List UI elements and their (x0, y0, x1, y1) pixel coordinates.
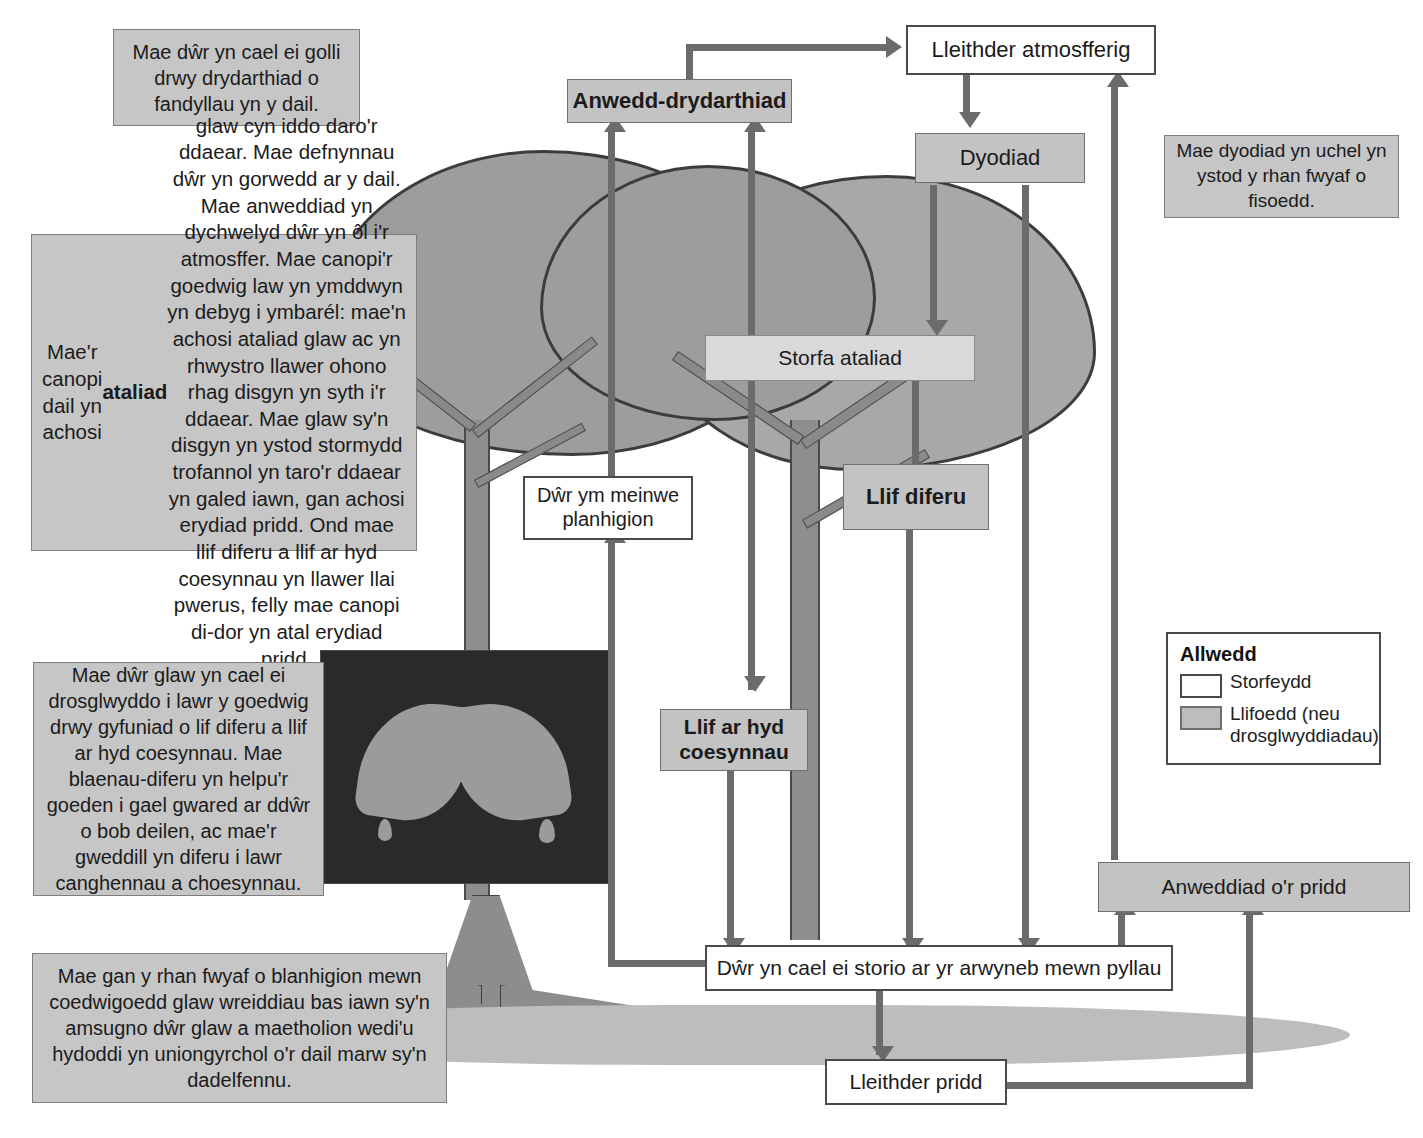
legend-label-stores: Storfeydd (1230, 671, 1311, 693)
photo-drop-right (539, 819, 555, 843)
note-transpiration: Mae dŵr yn cael ei golli drwy drydarthia… (113, 29, 360, 126)
arrowhead-to-atmospheric-moisture (886, 36, 902, 58)
connector-plant-tissue-to-evapotranspiration (608, 130, 615, 480)
arrowhead-interception-down (744, 676, 766, 692)
box-interception-store[interactable]: Storfa ataliad (705, 335, 975, 381)
connector-atmosphere-to-precipitation (963, 74, 970, 114)
box-stemflow[interactable]: Llif ar hyd coesynnau (660, 709, 808, 771)
legend-swatch-store (1180, 674, 1222, 698)
water-cycle-diagram: Anwedd-drydarthiad Lleithder atmosfferig… (0, 0, 1423, 1138)
note-canopy-interception: Mae'r canopi dail yn achosi ataliad glaw… (31, 234, 417, 551)
arrowhead-interception-store (926, 320, 948, 336)
box-evapotranspiration[interactable]: Anwedd-drydarthiad (567, 79, 792, 123)
photo-leaf-right (448, 694, 574, 828)
box-precipitation[interactable]: Dyodiad (915, 133, 1085, 183)
box-atmospheric-moisture[interactable]: Lleithder atmosfferig (906, 25, 1156, 75)
box-surface-water-store[interactable]: Dŵr yn cael ei storio ar yr arwyneb mewn… (705, 945, 1173, 991)
legend-label-flows: Llifoedd (neu drosglwyddiadau) (1230, 703, 1379, 748)
tree-trunk-right (790, 420, 820, 940)
connector-surface-store-to-soil-evaporation (1118, 912, 1125, 947)
connector-surface-to-plant-tissue-vertical (608, 540, 615, 964)
photo-drop-left (378, 819, 392, 841)
legend-item-stores: Storfeydd (1180, 671, 1367, 698)
connector-surface-to-plant-tissue-horizontal (608, 960, 713, 967)
legend-title: Allwedd (1180, 643, 1367, 666)
note-shallow-roots: Mae gan y rhan fwyaf o blanhigion mewn c… (32, 953, 447, 1103)
note-precipitation: Mae dyodiad yn uchel yn ystod y rhan fwy… (1164, 135, 1399, 218)
box-water-in-plant-tissue[interactable]: Dŵr ym meinwe planhigion (523, 476, 693, 540)
box-throughfall[interactable]: Llif diferu (843, 464, 989, 530)
box-soil-evaporation[interactable]: Anweddiad o'r pridd (1098, 862, 1410, 912)
legend-swatch-flow (1180, 706, 1222, 730)
connector-evapotranspiration-to-atmosphere-horizontal (686, 44, 886, 51)
legend-key: Allwedd Storfeydd Llifoedd (neu drosglwy… (1166, 632, 1381, 765)
connector-throughfall-to-surface-store (906, 530, 913, 945)
connector-precipitation-to-interception-store (930, 185, 937, 325)
connector-soil-evaporation-to-atmosphere (1111, 85, 1118, 860)
connector-soil-moisture-to-soil-evaporation-vertical (1246, 912, 1253, 1086)
connector-stemflow-to-surface-store (727, 770, 734, 945)
connector-precipitation-to-surface-store (1022, 185, 1029, 945)
arrowhead-precipitation (959, 112, 981, 128)
leaf-drip-photo (320, 650, 612, 884)
legend-item-flows: Llifoedd (neu drosglwyddiadau) (1180, 703, 1367, 748)
note-stemflow-dripping: Mae dŵr glaw yn cael ei drosglwyddo i la… (33, 662, 324, 896)
connector-interception-store-to-evapotranspiration (748, 130, 755, 690)
box-soil-moisture[interactable]: Lleithder pridd (825, 1059, 1007, 1105)
connector-surface-store-to-soil-moisture (876, 985, 883, 1055)
connector-soil-moisture-to-soil-evaporation-horizontal (978, 1082, 1253, 1089)
